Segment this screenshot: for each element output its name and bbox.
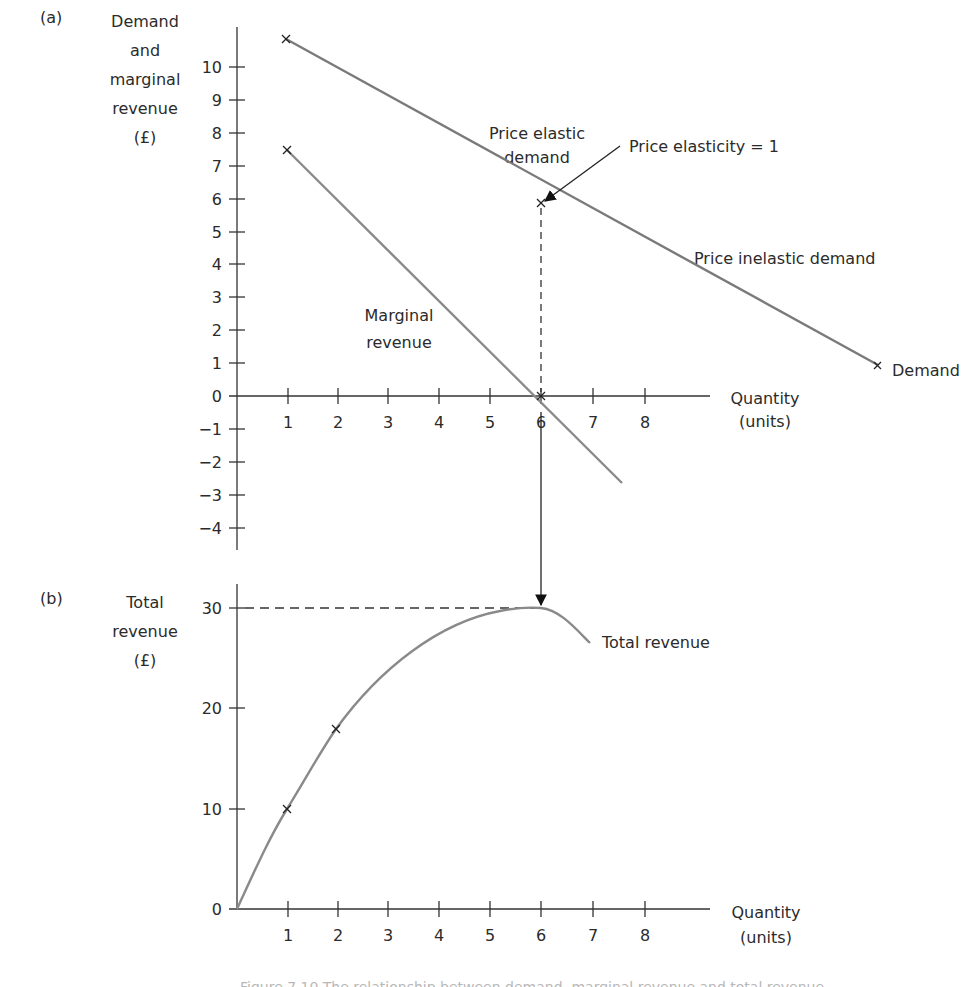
y-tick-label: 9 — [212, 91, 222, 110]
cross-marker-icon — [283, 146, 291, 154]
y-tick-label: 30 — [202, 599, 222, 618]
panel-b-x-tick-labels: 1 2 3 4 5 6 7 8 — [283, 926, 650, 945]
demand-curve — [286, 39, 878, 365]
panel-b-axes — [229, 584, 710, 917]
panel-a-x-tick-labels: 1 2 3 4 5 6 7 8 — [283, 413, 650, 432]
y-tick-label: −4 — [198, 519, 222, 538]
x-tick-label: 2 — [333, 926, 343, 945]
x-tick-label: 3 — [383, 413, 393, 432]
cross-marker-icon — [874, 362, 881, 369]
y-tick-label: 1 — [212, 354, 222, 373]
elasticity-arrow-icon — [545, 146, 620, 201]
cross-marker-icon — [283, 805, 291, 813]
y-tick-label: 5 — [212, 223, 222, 242]
x-tick-label: 8 — [640, 926, 650, 945]
panel-b-y-tick-labels: 30 20 10 0 — [202, 599, 222, 919]
x-tick-label: 4 — [434, 413, 444, 432]
x-tick-label: 3 — [383, 926, 393, 945]
x-tick-label: 7 — [588, 413, 598, 432]
marginal-revenue-curve — [287, 150, 622, 483]
cross-marker-icon — [537, 199, 545, 207]
cross-marker-icon — [332, 725, 340, 733]
y-tick-label: 2 — [212, 321, 222, 340]
x-tick-label: 1 — [283, 413, 293, 432]
y-tick-label: 7 — [212, 157, 222, 176]
total-revenue-curve — [237, 607, 590, 909]
x-tick-label: 5 — [485, 926, 495, 945]
x-tick-label: 7 — [588, 926, 598, 945]
x-tick-label: 6 — [536, 926, 546, 945]
panel-a-y-tick-labels: 10 9 8 7 6 5 4 3 2 1 0 −1 −2 −3 −4 — [198, 58, 222, 538]
cross-marker-icon — [282, 35, 290, 43]
x-tick-label: 4 — [434, 926, 444, 945]
x-tick-label: 5 — [485, 413, 495, 432]
y-tick-label: −1 — [198, 420, 222, 439]
y-tick-label: −3 — [198, 486, 222, 505]
y-tick-label: 4 — [212, 255, 222, 274]
y-tick-label: 10 — [202, 800, 222, 819]
x-tick-label: 1 — [283, 926, 293, 945]
point-markers — [282, 35, 881, 400]
y-tick-label: 8 — [212, 124, 222, 143]
y-tick-label: −2 — [198, 453, 222, 472]
y-tick-label: 0 — [212, 900, 222, 919]
x-tick-label: 2 — [333, 413, 343, 432]
x-tick-label: 8 — [640, 413, 650, 432]
panel-a-axes — [229, 27, 710, 550]
y-tick-label: 0 — [212, 387, 222, 406]
y-tick-label: 10 — [202, 58, 222, 77]
y-tick-label: 6 — [212, 190, 222, 209]
y-tick-label: 3 — [212, 288, 222, 307]
figure-canvas: 10 9 8 7 6 5 4 3 2 1 0 −1 −2 −3 −4 1 2 3… — [0, 0, 974, 987]
y-tick-label: 20 — [202, 699, 222, 718]
